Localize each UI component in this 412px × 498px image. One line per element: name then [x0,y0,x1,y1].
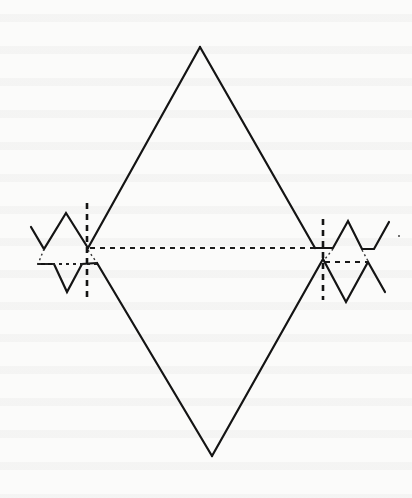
page [0,0,412,498]
rhombus-upper-left-edge [88,47,200,248]
left-zigzag-lower [38,263,97,292]
right-outer-dotted [362,250,368,261]
left-connector-dotted [38,249,44,264]
right-zigzag-upper [315,221,389,249]
left-inner-dotted [88,250,97,263]
rhombus-upper-right-edge [200,47,315,248]
rhombus-wave-diagram [0,0,412,498]
left-zigzag-upper [31,213,88,249]
left-wave-structure [31,203,97,298]
right-zigzag-lower [323,259,385,302]
right-inner-dotted [325,249,333,259]
rhombus [88,47,323,456]
rhombus-lower-left-edge [97,263,212,456]
paper-speck [398,235,400,237]
right-wave-structure [315,219,389,302]
rhombus-lower-right-edge [212,259,323,456]
